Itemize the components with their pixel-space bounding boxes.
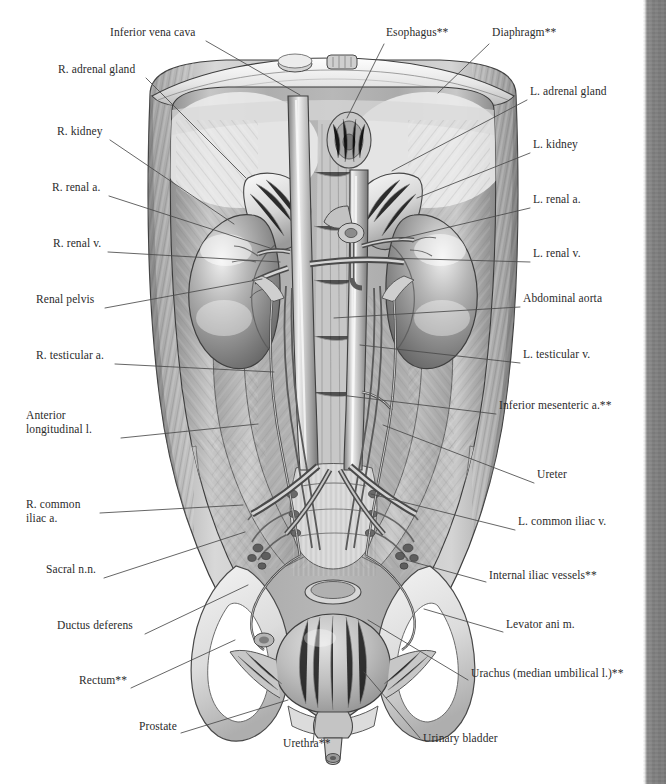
leader-line-l-adrenal-gland	[392, 100, 527, 171]
leader-line-prostate	[181, 700, 288, 733]
label-line: Urethra**	[283, 737, 331, 751]
label-line: L. kidney	[533, 138, 578, 152]
label-anterior-longitudinal-l: Anteriorlongitudinal l.	[26, 409, 92, 436]
label-line: Diaphragm**	[492, 26, 556, 40]
leader-line-urinary-bladder	[364, 672, 420, 738]
label-urinary-bladder: Urinary bladder	[423, 732, 498, 746]
label-line: L. testicular v.	[523, 348, 590, 362]
label-line: R. testicular a.	[36, 349, 104, 363]
label-esophagus: Esophagus**	[386, 26, 448, 40]
leader-line-r-renal-v	[108, 252, 280, 262]
leader-line-urachus	[368, 620, 468, 680]
leader-line-inferior-mesenteric-a	[340, 395, 496, 414]
label-line: L. common iliac v.	[518, 515, 606, 529]
label-line: iliac a.	[26, 512, 81, 526]
label-line: R. kidney	[57, 125, 103, 139]
label-line: Inferior vena cava	[110, 26, 195, 40]
label-l-renal-v: L. renal v.	[533, 247, 581, 261]
leader-line-renal-pelvis	[105, 279, 262, 308]
label-line: R. common	[26, 498, 81, 512]
leader-line-internal-iliac-vessels	[406, 560, 486, 582]
label-sacral-nn: Sacral n.n.	[46, 563, 96, 577]
label-line: Levator ani m.	[506, 618, 575, 632]
label-line: Anterior	[26, 409, 92, 423]
label-line: Sacral n.n.	[46, 563, 96, 577]
leader-line-levator-ani-m	[424, 609, 503, 632]
leader-line-l-kidney	[417, 153, 530, 198]
label-r-adrenal-gland: R. adrenal gland	[58, 63, 135, 77]
label-line: Renal pelvis	[36, 293, 94, 307]
label-l-kidney: L. kidney	[533, 138, 578, 152]
label-line: longitudinal l.	[26, 423, 92, 437]
label-line: Inferior mesenteric a.**	[499, 399, 612, 413]
leader-line-inferior-vena-cava	[206, 41, 300, 95]
label-line: Urachus (median umbilical l.)**	[471, 667, 624, 681]
label-l-renal-a: L. renal a.	[533, 193, 581, 207]
leader-line-esophagus	[347, 44, 384, 118]
label-internal-iliac-vessels: Internal iliac vessels**	[489, 569, 597, 583]
label-line: R. adrenal gland	[58, 63, 135, 77]
leader-line-r-common-iliac-a	[100, 505, 243, 513]
leader-line-l-renal-a	[399, 208, 530, 239]
label-l-testicular-v: L. testicular v.	[523, 348, 590, 362]
label-urethra: Urethra**	[283, 737, 331, 751]
label-r-renal-a: R. renal a.	[52, 181, 100, 195]
label-line: R. renal a.	[52, 181, 100, 195]
label-levator-ani-m: Levator ani m.	[506, 618, 575, 632]
label-line: Rectum**	[79, 674, 127, 688]
label-line: L. renal a.	[533, 193, 581, 207]
label-prostate: Prostate	[139, 720, 177, 734]
label-ductus-deferens: Ductus deferens	[57, 619, 133, 633]
label-r-testicular-a: R. testicular a.	[36, 349, 104, 363]
label-diaphragm: Diaphragm**	[492, 26, 556, 40]
leader-line-sacral-nn	[104, 532, 245, 578]
leader-line-diaphragm	[438, 44, 489, 93]
leader-line-anterior-longitudinal-l	[121, 424, 258, 438]
label-line: Ureter	[537, 468, 567, 482]
label-rectum: Rectum**	[79, 674, 127, 688]
label-r-renal-v: R. renal v.	[53, 237, 101, 251]
label-abdominal-aorta: Abdominal aorta	[523, 292, 602, 306]
leader-line-ductus-deferens	[145, 585, 248, 634]
leader-line-r-adrenal-gland	[146, 78, 246, 178]
leader-line-ureter	[383, 425, 534, 483]
label-ureter: Ureter	[537, 468, 567, 482]
leader-line-r-testicular-a	[115, 364, 274, 372]
label-line: Prostate	[139, 720, 177, 734]
label-inferior-vena-cava: Inferior vena cava	[110, 26, 195, 40]
label-line: Urinary bladder	[423, 732, 498, 746]
label-line: Internal iliac vessels**	[489, 569, 597, 583]
label-l-adrenal-gland: L. adrenal gland	[530, 85, 607, 99]
label-l-common-iliac-v: L. common iliac v.	[518, 515, 606, 529]
label-line: Ductus deferens	[57, 619, 133, 633]
label-r-kidney: R. kidney	[57, 125, 103, 139]
leader-line-l-renal-v	[386, 258, 530, 262]
leader-line-r-kidney	[110, 140, 234, 224]
label-line: Abdominal aorta	[523, 292, 602, 306]
label-line: R. renal v.	[53, 237, 101, 251]
label-line: Esophagus**	[386, 26, 448, 40]
leader-line-rectum	[131, 640, 235, 688]
label-line: L. adrenal gland	[530, 85, 607, 99]
label-line: L. renal v.	[533, 247, 581, 261]
label-r-common-iliac-a: R. commoniliac a.	[26, 498, 81, 525]
leader-line-abdominal-aorta	[334, 307, 520, 318]
label-renal-pelvis: Renal pelvis	[36, 293, 94, 307]
leader-line-r-renal-a	[109, 196, 270, 248]
label-urachus: Urachus (median umbilical l.)**	[471, 667, 624, 681]
leader-line-l-common-iliac-v	[371, 494, 515, 530]
leader-line-l-testicular-v	[360, 345, 520, 363]
label-inferior-mesenteric-a: Inferior mesenteric a.**	[499, 399, 612, 413]
page-edge-band	[643, 0, 666, 784]
anatomy-plate: Inferior vena cavaR. adrenal glandR. kid…	[0, 0, 666, 784]
